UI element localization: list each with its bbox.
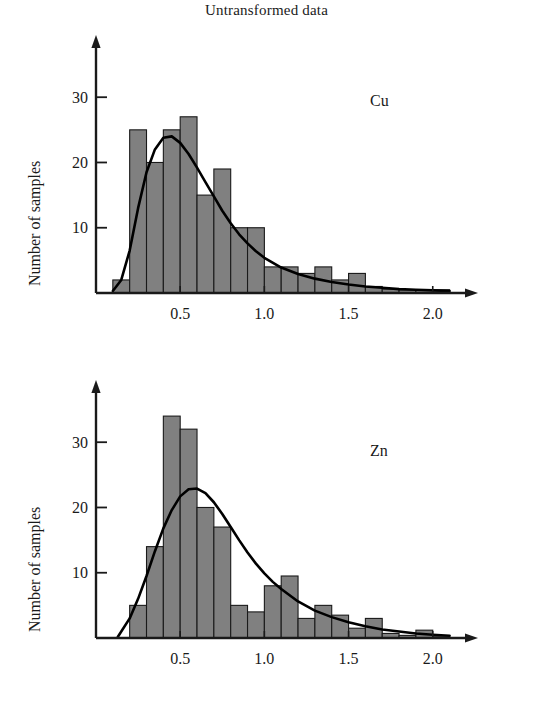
x-axis-tick-label: 1.5 — [339, 305, 359, 322]
histogram-bar — [264, 586, 281, 638]
histogram-bar — [248, 612, 265, 638]
histogram-bar — [147, 547, 164, 638]
x-axis-arrow-icon — [465, 633, 478, 642]
histogram-bar — [214, 169, 231, 293]
figure-untransformed-data: Untransformed data Number of samples Cu … — [0, 0, 533, 705]
x-axis-tick-label: 1.5 — [339, 650, 359, 667]
histogram-bar — [248, 228, 265, 293]
y-axis-tick-label: 10 — [72, 564, 88, 581]
histogram-bar — [163, 130, 180, 293]
histogram-bar — [349, 273, 366, 293]
histogram-bar — [147, 162, 164, 293]
plot-area-cu: 1020300.51.01.52.0 — [0, 14, 533, 344]
x-axis-tick-label: 2.0 — [423, 305, 443, 322]
histogram-bar — [180, 117, 197, 293]
y-axis-arrow-icon — [91, 35, 100, 48]
histogram-bar — [349, 628, 366, 638]
histogram-bar — [298, 618, 315, 638]
histogram-bar — [264, 267, 281, 293]
histogram-bar — [231, 605, 248, 638]
bar-group — [130, 416, 450, 638]
histogram-bar — [163, 416, 180, 638]
x-axis-tick-label: 1.0 — [254, 650, 274, 667]
histogram-bar — [281, 576, 298, 638]
x-axis-tick-label: 1.0 — [254, 305, 274, 322]
histogram-bar — [197, 195, 214, 293]
histogram-bar — [214, 527, 231, 638]
x-axis-arrow-icon — [465, 288, 478, 297]
histogram-bar — [197, 507, 214, 638]
chart-panel-zn: Number of samples Zn 1020300.51.01.52.0 — [0, 360, 533, 700]
plot-area-zn: 1020300.51.01.52.0 — [0, 360, 533, 700]
y-axis-tick-label: 30 — [72, 434, 88, 451]
chart-panel-cu: Number of samples Cu 1020300.51.01.52.0 — [0, 14, 533, 344]
x-axis-tick-label: 0.5 — [170, 650, 190, 667]
histogram-bar — [231, 228, 248, 293]
y-axis-tick-label: 20 — [72, 154, 88, 171]
y-axis-tick-label: 10 — [72, 219, 88, 236]
x-axis-tick-label: 2.0 — [423, 650, 443, 667]
y-axis-tick-label: 30 — [72, 89, 88, 106]
y-axis-tick-label: 20 — [72, 499, 88, 516]
x-axis-tick-label: 0.5 — [170, 305, 190, 322]
histogram-bar — [180, 429, 197, 638]
y-axis-arrow-icon — [91, 380, 100, 393]
